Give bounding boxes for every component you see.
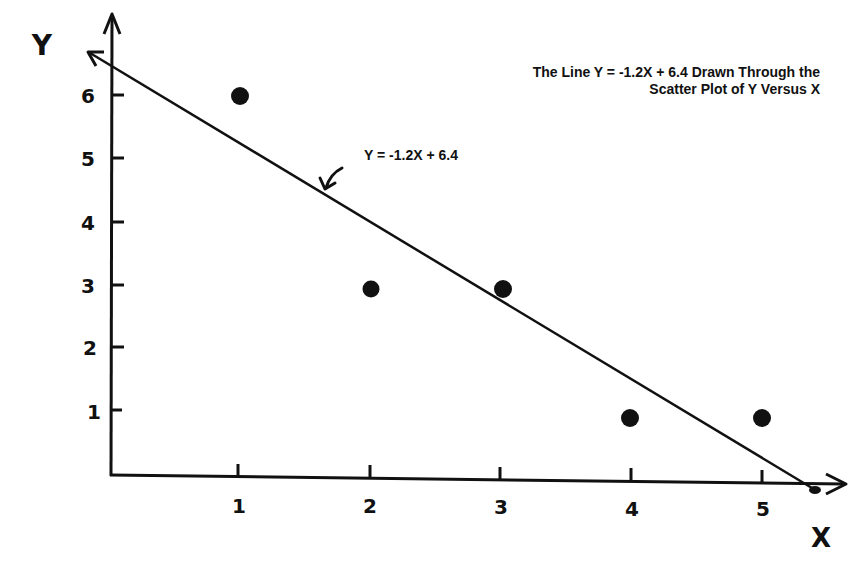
line-end-blot bbox=[809, 486, 821, 494]
data-point bbox=[363, 281, 380, 298]
y-axis-label: Y bbox=[31, 29, 53, 62]
x-axis-label: X bbox=[811, 523, 831, 553]
equation-annotation: Y = -1.2X + 6.4 bbox=[364, 147, 458, 163]
x-tick-label: 3 bbox=[494, 495, 508, 519]
y-tick-label: 6 bbox=[81, 84, 95, 108]
x-axis bbox=[110, 475, 844, 484]
y-tick-label: 3 bbox=[81, 274, 95, 298]
chart-title-line-2: Scatter Plot of Y Versus X bbox=[649, 81, 820, 97]
x-tick-label: 5 bbox=[756, 497, 770, 521]
x-tick-label: 4 bbox=[625, 497, 639, 521]
regression-line bbox=[90, 53, 812, 488]
x-tick-label: 1 bbox=[232, 494, 246, 518]
x-tick-labels: 1 2 3 4 5 bbox=[232, 494, 770, 521]
data-point bbox=[621, 409, 639, 427]
data-point bbox=[494, 280, 512, 298]
data-point bbox=[231, 87, 249, 105]
y-tick-label: 1 bbox=[87, 400, 101, 424]
chart-title-line-1: The Line Y = -1.2X + 6.4 Drawn Through t… bbox=[533, 64, 820, 80]
y-tick-label: 5 bbox=[81, 147, 95, 171]
y-axis bbox=[111, 16, 112, 476]
y-tick-label: 4 bbox=[81, 211, 95, 235]
y-tick-label: 2 bbox=[83, 336, 97, 360]
data-points bbox=[231, 87, 771, 427]
y-tick-labels: 6 5 4 3 2 1 bbox=[81, 84, 101, 424]
data-point bbox=[753, 409, 771, 427]
x-tick-label: 2 bbox=[363, 494, 377, 518]
